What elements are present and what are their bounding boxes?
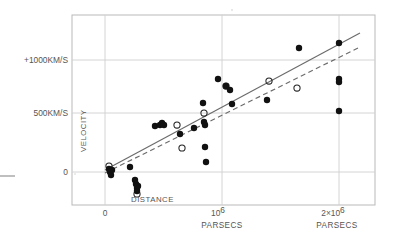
nebula-point [177,131,183,137]
nebula-point [203,159,209,165]
stray-mark-left-icon [74,173,75,174]
x-unit-label-left: PARSECS [201,221,242,230]
x-tick-1e6-exponent: 6 [220,205,225,215]
nebula-point [200,100,206,106]
nebula-point [202,144,208,150]
nebula-point [336,79,342,85]
y-axis-title: VELOCITY [79,109,88,152]
x-tick-label-2e6: 2×106 [321,205,345,218]
nebula-point [215,76,221,82]
x-axis-inner-title: DISTANCE [131,195,174,204]
velocity-distance-figure: +1000KM/S 500KM/S 0 VELOCITY DISTANCE 0 … [0,0,394,250]
nebula-point [227,87,233,93]
group-mean-point [179,145,185,151]
nebula-point [161,122,167,128]
x-tick-2e6-mantissa: 2×10 [321,208,340,218]
vertical-gridlines [105,15,339,205]
y-tick-label-0: 0 [63,167,68,177]
nebula-points [106,40,342,194]
x-tick-label-0: 0 [103,208,108,218]
scatter-plot-canvas: +1000KM/S 500KM/S 0 VELOCITY DISTANCE 0 … [0,0,394,250]
plot-frame [72,15,375,205]
group-mean-point [294,85,300,91]
nebula-point [109,167,115,173]
horizontal-gridlines [72,60,375,172]
y-tick-label-500: 500KM/S [34,108,69,118]
x-tick-label-1e6: 106 [211,205,225,218]
nebula-point [135,183,141,189]
nebula-point [127,164,133,170]
nebula-point [191,125,197,131]
x-unit-label-right: PARSECS [316,221,357,230]
stray-mark-top-icon [231,9,232,10]
y-tick-label-1000: +1000KM/S [24,55,68,65]
nebula-point [296,45,302,51]
x-tick-1e6-mantissa: 10 [211,208,221,218]
nebula-point [229,101,235,107]
scan-artifacts [0,9,233,176]
dashed-regression-line [105,47,360,173]
x-tick-2e6-exponent: 6 [340,205,345,215]
nebula-point [264,97,270,103]
nebula-point [336,108,342,114]
nebula-point [202,122,208,128]
group-mean-point [174,122,180,128]
nebula-point [336,40,342,46]
